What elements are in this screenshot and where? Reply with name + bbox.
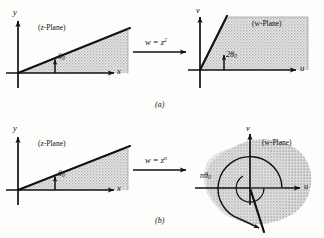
w-plane-label-a: (w-Plane) (252, 20, 282, 28)
z-plane-label-b: (z-Plane) (38, 140, 65, 148)
u-axis-label-b: u (304, 182, 308, 191)
y-axis-label-b: y (13, 124, 17, 133)
transform-rhs-exponent: 2 (164, 37, 167, 43)
panel-a-source-plot (6, 21, 130, 88)
conformal-mapping-figure (0, 0, 324, 238)
panel-a-target-plot (188, 16, 308, 88)
angle-label-a-target: 2θ0 (226, 51, 237, 60)
v-axis-label-a: v (196, 6, 200, 15)
angle-symbol: 2θ (226, 50, 234, 59)
x-axis-label-a: x (117, 67, 121, 76)
panel-b-target-plot (195, 134, 311, 232)
u-axis-label-a: u (300, 64, 304, 73)
angle-subscript: 0 (208, 174, 211, 180)
y-axis-label-a: y (13, 8, 17, 17)
transform-label-b: w = zn (145, 156, 167, 165)
v-axis-label-b: v (246, 124, 250, 133)
transform-lhs: w (145, 37, 151, 47)
z-plane-label-a: (z-Plane) (38, 24, 65, 32)
x-axis-label-b: x (117, 184, 121, 193)
shaded-overlap-region-inner (204, 147, 292, 221)
transform-equals: = (153, 155, 159, 165)
angle-label-b-source: θ0 (58, 170, 65, 179)
angle-subscript: 0 (234, 53, 237, 59)
transform-label-a: w = z2 (145, 38, 167, 47)
angle-label-b-target: nθ0 (200, 172, 211, 181)
figure-caption-a: (a) (155, 101, 164, 109)
angle-subscript: 0 (62, 55, 65, 61)
transform-equals: = (153, 37, 159, 47)
w-plane-label-b: (w-Plane) (262, 139, 292, 147)
panel-b-source-plot (6, 137, 130, 205)
angle-subscript: 0 (62, 172, 65, 178)
angle-symbol: nθ (200, 171, 208, 180)
figure-caption-b: (b) (155, 217, 164, 225)
angle-label-a-source: θ0 (58, 53, 65, 62)
transform-rhs-exponent: n (164, 155, 167, 161)
transform-lhs: w (145, 155, 151, 165)
